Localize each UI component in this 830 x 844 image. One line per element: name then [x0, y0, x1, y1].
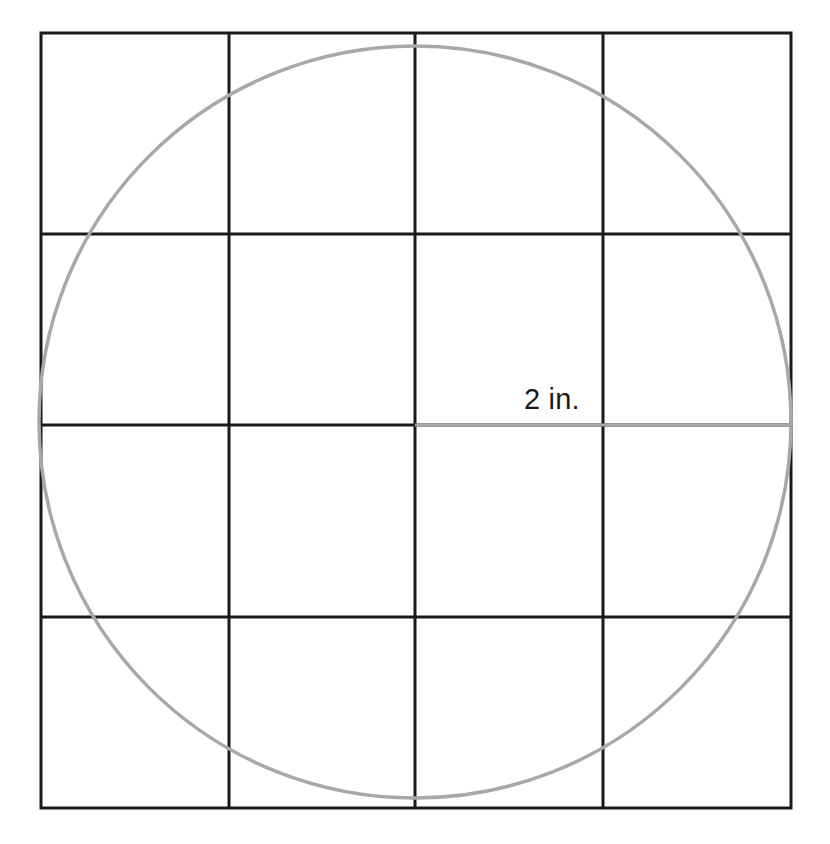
circle-in-grid-square-figure	[0, 0, 830, 844]
radius-measurement-label: 2 in.	[524, 385, 580, 414]
diagram-canvas: 2 in.	[0, 0, 830, 844]
